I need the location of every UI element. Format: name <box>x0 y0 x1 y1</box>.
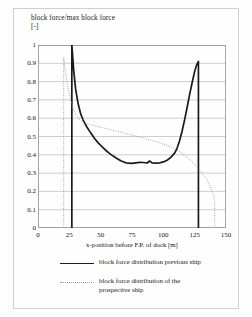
x-tick-label: 50 <box>91 231 111 239</box>
y-tick-label: 0.4 <box>14 151 36 159</box>
figure-container: block force/max block force [-] 00.10.20… <box>0 0 252 317</box>
x-tick-label: 100 <box>153 231 173 239</box>
y-tick-label: 0.1 <box>14 206 36 214</box>
x-tick-label: 25 <box>59 231 79 239</box>
y-tick-label: 0.8 <box>14 78 36 86</box>
x-tick-label: 125 <box>185 231 205 239</box>
legend-line-solid-icon <box>60 259 94 268</box>
plot-area <box>38 45 226 228</box>
y-tick-label: 0.7 <box>14 96 36 104</box>
y-tick-label: 0.3 <box>14 169 36 177</box>
y-tick-label: 1 <box>14 41 36 49</box>
chart-legend: block force distribution previous ship b… <box>60 258 235 303</box>
x-tick-label: 75 <box>122 231 142 239</box>
legend-label-previous-ship: block force distribution previous ship <box>99 258 201 267</box>
y-tick-label: 0.9 <box>14 59 36 67</box>
x-axis-title: x-position before F.P. of dock [m] <box>38 241 226 248</box>
chart-title: block force/max block force [-] <box>31 14 115 32</box>
y-axis-tick-labels: 00.10.20.30.40.50.60.70.80.91 <box>12 45 36 228</box>
plot-svg <box>38 45 226 228</box>
y-tick-label: 0.5 <box>14 133 36 141</box>
y-tick-label: 0.2 <box>14 187 36 195</box>
legend-item-prospective-ship: block force distribution of the prospect… <box>60 277 235 294</box>
legend-line-dotted-icon <box>60 278 94 287</box>
x-tick-label: 150 <box>216 231 236 239</box>
y-tick-label: 0.6 <box>14 114 36 122</box>
legend-item-previous-ship: block force distribution previous ship <box>60 258 235 268</box>
legend-label-prospective-ship: block force distribution of the prospect… <box>99 277 180 294</box>
x-tick-label: 0 <box>28 231 48 239</box>
